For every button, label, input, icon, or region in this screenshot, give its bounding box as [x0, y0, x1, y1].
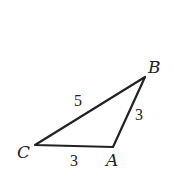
triangle-abc [35, 77, 145, 147]
side-length-ba: 3 [135, 106, 143, 123]
triangle-diagram: B C A 5 3 3 [0, 0, 174, 192]
side-length-cb: 5 [74, 92, 82, 109]
vertex-label-a: A [104, 150, 118, 170]
side-length-ca: 3 [70, 152, 78, 169]
vertex-label-c: C [17, 142, 30, 162]
vertex-label-b: B [147, 57, 161, 77]
